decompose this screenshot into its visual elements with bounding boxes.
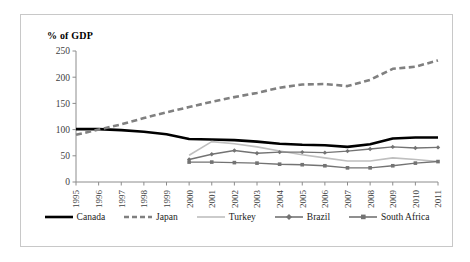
- legend-item-japan[interactable]: Japan: [123, 212, 178, 222]
- x-tick-label: 2009: [388, 190, 398, 209]
- x-tick-label: 2006: [320, 190, 330, 209]
- y-tick-label: 50: [61, 151, 71, 161]
- y-tick-label: 200: [56, 73, 71, 83]
- series-marker-south-africa: [391, 164, 395, 168]
- x-tick-label: 1997: [117, 190, 127, 209]
- x-tick-label: 2000: [185, 190, 195, 209]
- series-marker-brazil: [323, 150, 327, 154]
- series-marker-south-africa: [323, 164, 327, 168]
- legend-swatch-icon: [274, 212, 304, 222]
- chart-legend: CanadaJapanTurkeyBrazilSouth Africa: [21, 212, 452, 222]
- x-tick-label: 2008: [366, 190, 376, 209]
- series-marker-brazil: [368, 147, 372, 151]
- series-marker-south-africa: [300, 163, 304, 167]
- legend-label: Turkey: [229, 212, 256, 222]
- series-marker-brazil: [436, 145, 440, 149]
- x-tick-label: 2005: [298, 190, 308, 209]
- legend-swatch-icon: [44, 212, 74, 222]
- series-marker-brazil: [210, 152, 214, 156]
- legend-label: Japan: [156, 212, 178, 222]
- x-tick-label: 2011: [433, 190, 443, 208]
- x-tick-label: 2002: [230, 190, 240, 208]
- series-marker-south-africa: [255, 161, 259, 165]
- series-marker-brazil: [345, 149, 349, 153]
- series-marker-south-africa: [346, 166, 350, 170]
- x-tick-label: 2010: [411, 190, 421, 209]
- series-marker-brazil: [255, 151, 259, 155]
- legend-item-brazil[interactable]: Brazil: [274, 212, 330, 222]
- y-tick-label: 0: [65, 177, 70, 187]
- series-line-brazil: [189, 147, 438, 160]
- series-marker-south-africa: [368, 166, 372, 170]
- legend-label: Canada: [77, 212, 106, 222]
- series-marker-brazil: [300, 150, 304, 154]
- series-marker-south-africa: [278, 162, 282, 166]
- series-marker-south-africa: [210, 160, 214, 164]
- x-axis-group: 1995199619971998199920002001200220032004…: [71, 182, 443, 208]
- x-tick-label: 2001: [207, 190, 217, 208]
- legend-item-turkey[interactable]: Turkey: [196, 212, 256, 222]
- chart-figure: % of GDP 050100150200250 199519961997199…: [20, 14, 453, 247]
- series-marker-south-africa: [187, 160, 191, 164]
- y-axis-group: 050100150200250: [56, 46, 76, 187]
- x-tick-label: 2007: [343, 190, 353, 209]
- x-tick-label: 1998: [139, 190, 149, 209]
- series-marker-brazil: [391, 145, 395, 149]
- series-marker-south-africa: [233, 161, 237, 165]
- x-tick-label: 1996: [94, 190, 104, 209]
- y-tick-label: 150: [56, 99, 71, 109]
- series-line-canada: [76, 129, 438, 147]
- y-tick-label: 100: [56, 125, 71, 135]
- legend-item-south-africa[interactable]: South Africa: [348, 212, 429, 222]
- series-marker-brazil: [232, 148, 236, 152]
- x-tick-label: 1995: [71, 190, 81, 209]
- series-marker-south-africa: [414, 161, 418, 165]
- series-line-japan: [76, 60, 438, 134]
- x-tick-label: 2004: [275, 190, 285, 209]
- series-marker-south-africa: [436, 160, 440, 164]
- legend-swatch-icon: [196, 212, 226, 222]
- y-tick-label: 250: [56, 46, 71, 56]
- legend-item-canada[interactable]: Canada: [44, 212, 106, 222]
- legend-swatch-icon: [123, 212, 153, 222]
- legend-label: South Africa: [381, 212, 429, 222]
- series-line-south-africa: [189, 162, 438, 168]
- legend-label: Brazil: [307, 212, 330, 222]
- series-group: [76, 60, 440, 169]
- series-marker-brazil: [413, 146, 417, 150]
- legend-swatch-icon: [348, 212, 378, 222]
- x-tick-label: 1999: [162, 190, 172, 209]
- x-tick-label: 2003: [252, 190, 262, 209]
